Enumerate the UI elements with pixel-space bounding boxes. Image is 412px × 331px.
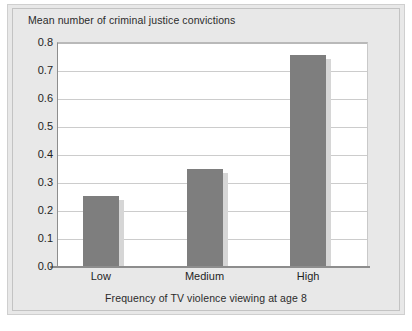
chart-figure: Mean number of criminal justice convicti… [0, 0, 412, 331]
bar-high [290, 55, 326, 266]
y-axis-tick-label: 0.4 [25, 148, 53, 160]
y-axis-tick-label: 0.7 [25, 64, 53, 76]
chart-title: Mean number of criminal justice convicti… [28, 14, 235, 26]
y-axis-tick-label: 0.3 [25, 176, 53, 188]
x-axis-label: Frequency of TV violence viewing at age … [0, 292, 412, 304]
y-axis-tick-label: 0.8 [25, 36, 53, 48]
bar-shadow [326, 59, 331, 266]
x-axis-tick-label: High [297, 270, 320, 282]
bar-shadow [119, 200, 124, 266]
bar-shadow [223, 173, 228, 266]
y-axis-tick-label: 0.0 [25, 260, 53, 272]
y-axis-tick-label: 0.1 [25, 232, 53, 244]
bar-low [83, 196, 119, 266]
x-axis-tick-label: Medium [185, 270, 224, 282]
y-axis-tick-label: 0.5 [25, 120, 53, 132]
gridline [58, 43, 367, 44]
y-axis-tick-label: 0.6 [25, 92, 53, 104]
bar-medium [187, 169, 223, 266]
x-axis-tick-label: Low [91, 270, 111, 282]
y-axis-ticks: 0.00.10.20.30.40.50.60.70.8 [23, 0, 53, 331]
y-axis-tick-label: 0.2 [25, 204, 53, 216]
x-axis-line [50, 266, 370, 268]
